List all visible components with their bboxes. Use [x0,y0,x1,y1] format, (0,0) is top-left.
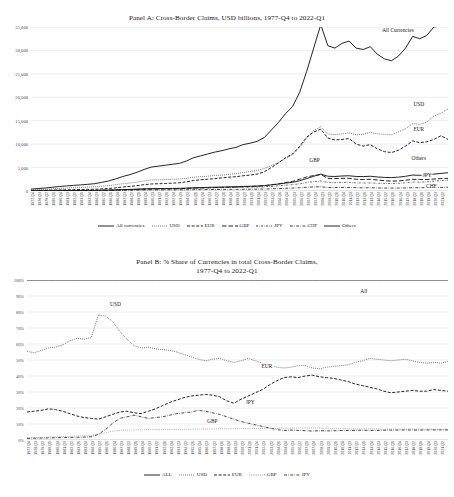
x-tick-label: 2016-Q4 [399,192,403,206]
legend-swatch-usd [152,224,168,228]
x-tick-label: 2008-Q3 [320,441,324,455]
x-tick-label: 1978-Q3 [38,192,42,206]
legend-item: EUR [214,472,242,477]
x-tick-label: 2021-Q2 [441,192,445,206]
legend-swatch-jpy [256,224,272,228]
x-tick-label: 2020-Q3 [434,441,438,455]
legend-swatch-others [324,224,340,228]
legend-swatch-gbp [249,473,265,477]
x-tick-label: 1984-Q3 [95,192,99,206]
x-tick-label: 2007-Q4 [312,441,316,455]
x-tick-label: 2015-Q2 [384,441,388,455]
series-annotation-gbp: GBP [206,418,219,424]
y-tick-label: 5,000 [18,165,31,170]
panel-a-svg [31,27,448,191]
legend-label: Others [342,223,355,228]
x-tick-label: 1986-Q1 [109,192,113,206]
x-tick-label: 2001-Q4 [257,192,261,206]
x-tick-label: 1999-Q3 [236,192,240,206]
x-tick-label: 2017-Q3 [406,192,410,206]
x-tick-label: 1980-Q1 [52,192,56,206]
x-tick-label: 1984-Q3 [91,441,95,455]
x-tick-label: 2013-Q4 [370,441,374,455]
y-tick-label: 0% [18,438,27,443]
series-line [31,27,448,189]
series-line [27,410,448,438]
x-tick-label: 1982-Q2 [70,441,74,455]
x-tick-label: 2020-Q3 [434,192,438,206]
x-tick-label: 1980-Q1 [48,441,52,455]
legend-item: All currencies [98,223,144,228]
x-tick-label: 1998-Q4 [227,441,231,455]
x-tick-label: 2010-Q4 [341,441,345,455]
y-tick-label: 35,000 [15,25,31,30]
x-tick-label: 2005-Q3 [291,441,295,455]
x-tick-label: 1979-Q2 [41,441,45,455]
y-tick-label: 25,000 [15,71,31,76]
x-tick-label: 1996-Q3 [205,441,209,455]
x-tick-label: 1998-Q1 [220,441,224,455]
x-tick-label: 1992-Q4 [170,441,174,455]
legend-label: CHF [308,223,318,228]
x-tick-label: 1986-Q1 [105,441,109,455]
x-tick-label: 2004-Q1 [278,192,282,206]
legend-label: JPY [302,472,310,477]
figure-page: Panel A: Cross-Border Claims, USD billio… [0,0,454,497]
legend-item: EUR [187,223,215,228]
panel-b: Panel B: % Share of Currencies in total … [0,253,454,497]
legend-swatch-chf [290,224,306,228]
x-tick-label: 1999-Q3 [234,441,238,455]
x-tick-label: 1981-Q3 [63,441,67,455]
panel-a: Panel A: Cross-Border Claims, USD billio… [0,0,454,252]
x-tick-label: 2002-Q3 [264,192,268,206]
x-tick-label: 2011-Q3 [348,441,352,454]
series-annotation-all: All Currencies [381,27,415,33]
series-annotation-eur: EUR [261,363,274,369]
x-tick-label: 2001-Q4 [255,441,259,455]
x-tick-label: 2007-Q4 [314,192,318,206]
x-tick-label: 1983-Q1 [77,441,81,455]
x-tick-label: 1987-Q3 [123,192,127,206]
x-tick-label: 2019-Q4 [427,441,431,455]
panel-a-title: Panel A: Cross-Border Claims, USD billio… [0,0,454,23]
x-tick-label: 1985-Q2 [102,192,106,206]
legend-item: JPY [284,472,310,477]
x-tick-label: 1989-Q4 [141,441,145,455]
series-annotation-usd: USD [109,301,122,307]
x-tick-label: 1994-Q2 [184,441,188,455]
panel-b-plot-area: 0%10%20%30%40%50%60%70%80%90%100%AllUSDE… [27,280,448,440]
x-tick-label: 2004-Q4 [284,441,288,455]
x-tick-label: 1981-Q3 [66,192,70,206]
x-tick-label: 2009-Q2 [328,192,332,206]
x-tick-label: 1986-Q4 [113,441,117,455]
legend-label: GBP [240,223,250,228]
x-tick-label: 2014-Q3 [377,441,381,455]
x-tick-label: 1990-Q3 [151,192,155,206]
x-tick-label: 2012-Q2 [356,192,360,206]
legend-swatch-all [144,473,160,477]
x-tick-label: 1997-Q2 [213,441,217,455]
y-tick-label: 70% [16,326,27,331]
x-tick-label: 2018-Q2 [412,441,416,455]
x-tick-label: 1991-Q2 [158,192,162,206]
x-tick-label: 2004-Q4 [285,192,289,206]
legend-item: JPY [256,223,282,228]
x-tick-label: 1979-Q2 [45,192,49,206]
x-tick-label: 2007-Q1 [305,441,309,455]
panel-b-legend: ALLUSDEURGBPJPY [0,472,454,477]
x-tick-label: 2019-Q4 [427,192,431,206]
x-tick-label: 2019-Q1 [420,192,424,206]
panel-a-x-axis: 1977-Q41978-Q31979-Q21980-Q11980-Q41981-… [31,191,448,221]
x-tick-label: 2002-Q3 [262,441,266,455]
x-tick-label: 1993-Q3 [179,192,183,206]
series-line [27,375,448,419]
x-tick-label: 2008-Q3 [321,192,325,206]
series-line [31,129,448,190]
x-tick-label: 2015-Q2 [384,192,388,206]
x-tick-label: 1992-Q1 [163,441,167,455]
x-tick-label: 2014-Q3 [377,192,381,206]
x-tick-label: 2004-Q1 [277,441,281,455]
legend-swatch-eur [187,224,203,228]
legend-item: ALL [144,472,172,477]
y-tick-label: 15,000 [15,118,31,123]
